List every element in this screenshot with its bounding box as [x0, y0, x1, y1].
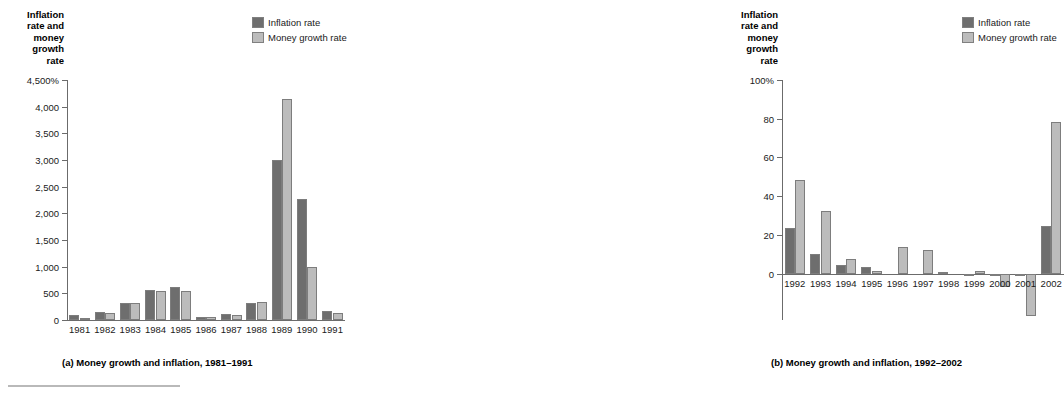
bar-a-1986-inflation [196, 317, 206, 320]
y-tick-mark [777, 157, 782, 158]
x-tick-label-1991: 1991 [322, 324, 343, 335]
y-tick-mark [777, 119, 782, 120]
x-tick-label-1996: 1996 [887, 278, 908, 289]
x-tick-label-1983: 1983 [120, 324, 141, 335]
footer-divider [8, 385, 180, 387]
y-tick-label: 3,500 [35, 128, 59, 139]
y-tick-label: 40 [763, 191, 774, 202]
bar-a-1983-money-growth [130, 303, 140, 320]
legend-item-money-growth-rate-a: Money growth rate [252, 31, 347, 44]
y-tick-label: 1,500 [35, 235, 59, 246]
x-tick-label-1998: 1998 [938, 278, 959, 289]
x-tick-label-1982: 1982 [94, 324, 115, 335]
y-tick-label: 2,000 [35, 208, 59, 219]
light-swatch-icon [252, 32, 264, 43]
y-tick-mark [777, 235, 782, 236]
x-tick-label-1984: 1984 [145, 324, 166, 335]
x-axis-a [67, 320, 345, 321]
bar-b-2000-inflation [990, 274, 1000, 277]
bar-b-2002-inflation [1041, 226, 1051, 274]
bar-a-1982-money-growth [105, 313, 115, 320]
bar-a-1981-inflation [69, 315, 79, 320]
bar-a-1990-inflation [297, 199, 307, 320]
y-tick-label: 80 [763, 113, 774, 124]
y-tick-mark [62, 187, 67, 188]
legend-label-money-growth-rate: Money growth rate [268, 32, 347, 43]
legend-item-inflation-rate-a: Inflation rate [252, 16, 347, 29]
x-tick-label-1985: 1985 [170, 324, 191, 335]
dark-swatch-icon [252, 17, 264, 28]
bar-a-1987-money-growth [232, 315, 242, 320]
x-tick-label-1989: 1989 [271, 324, 292, 335]
y-tick-mark [62, 107, 67, 108]
x-tick-label-1994: 1994 [836, 278, 857, 289]
y-tick-mark [62, 240, 67, 241]
x-tick-label-1987: 1987 [221, 324, 242, 335]
y-tick-mark [62, 320, 67, 321]
legend-label-money-growth-rate: Money growth rate [978, 32, 1057, 43]
bar-a-1984-money-growth [156, 291, 166, 320]
x-tick-label-2000: 2000 [989, 278, 1010, 289]
bar-a-1984-inflation [145, 290, 155, 320]
bar-a-1990-money-growth [307, 267, 317, 320]
x-tick-label-1997: 1997 [912, 278, 933, 289]
y-tick-mark [62, 267, 67, 268]
x-tick-label-2002: 2002 [1041, 278, 1062, 289]
bar-b-1997-money-growth [923, 250, 933, 274]
x-tick-label-1988: 1988 [246, 324, 267, 335]
bar-b-1994-money-growth [846, 259, 856, 274]
y-axis-a [67, 80, 68, 320]
y-tick-label: 3,000 [35, 155, 59, 166]
legend-item-inflation-rate-b: Inflation rate [962, 16, 1057, 29]
y-tick-label: 2,500 [35, 181, 59, 192]
y-tick-label: 20 [763, 229, 774, 240]
bar-a-1989-inflation [272, 160, 282, 320]
x-tick-label-1999: 1999 [964, 278, 985, 289]
y-tick-label: 4,500% [27, 75, 59, 86]
bar-a-1987-inflation [221, 314, 231, 320]
bar-a-1988-money-growth [257, 302, 267, 320]
y-tick-label: 60 [763, 152, 774, 163]
caption-b: (b) Money growth and inflation, 1992–200… [771, 357, 962, 368]
bar-a-1991-money-growth [333, 313, 343, 320]
bar-b-2001-inflation [1015, 274, 1025, 277]
bar-b-1995-inflation [861, 267, 871, 273]
y-tick-label: 0 [769, 268, 774, 279]
bar-a-1989-money-growth [282, 99, 292, 320]
bar-a-1983-inflation [120, 303, 130, 320]
x-tick-label-1981: 1981 [69, 324, 90, 335]
x-tick-label-1995: 1995 [861, 278, 882, 289]
x-tick-label-1990: 1990 [297, 324, 318, 335]
bar-a-1988-inflation [246, 303, 256, 320]
legend-label-inflation-rate: Inflation rate [268, 17, 320, 28]
y-tick-label: 4,000 [35, 101, 59, 112]
y-tick-mark [777, 196, 782, 197]
caption-a: (a) Money growth and inflation, 1981–199… [62, 357, 253, 368]
light-swatch-icon [962, 32, 974, 43]
legend-item-money-growth-rate-b: Money growth rate [962, 31, 1057, 44]
bar-b-1999-money-growth [975, 271, 985, 274]
chart-panel-b: Inflation rate and money growth rate Inf… [358, 0, 721, 400]
plot-area-b: 020406080100% 19921993199419951996199719… [782, 80, 1064, 320]
bar-a-1985-money-growth [181, 291, 191, 320]
x-tick-label-1986: 1986 [195, 324, 216, 335]
y-tick-mark [62, 293, 67, 294]
y-tick-mark [62, 80, 67, 81]
chart-panel-a: Inflation rate and money growth rate Inf… [0, 0, 358, 400]
y-tick-label: 500 [43, 288, 59, 299]
bar-a-1982-inflation [95, 312, 105, 320]
bar-a-1981-money-growth [80, 318, 90, 320]
bar-b-1999-inflation [964, 274, 974, 276]
bar-a-1991-inflation [322, 311, 332, 320]
y-tick-label: 100% [750, 75, 774, 86]
bar-b-1992-inflation [785, 228, 795, 273]
plot-area-a: 05001,0001,5002,0002,5003,0003,5004,0004… [67, 80, 345, 320]
bar-b-1995-money-growth [872, 271, 882, 273]
y-axis-title-a: Inflation rate and money growth rate [4, 9, 64, 66]
legend-b: Inflation rate Money growth rate [962, 16, 1057, 46]
bar-b-1993-money-growth [821, 211, 831, 274]
bar-b-1992-money-growth [795, 180, 805, 273]
y-tick-mark [62, 133, 67, 134]
legend-label-inflation-rate: Inflation rate [978, 17, 1030, 28]
